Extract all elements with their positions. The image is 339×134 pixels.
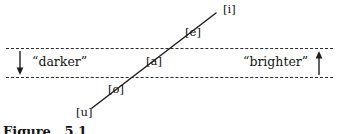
vowel-label-o: [o]: [108, 83, 124, 95]
vowel-label-u: [u]: [76, 106, 93, 118]
arrow-down-icon: [13, 50, 27, 76]
band-label-darker: “darker”: [32, 55, 87, 69]
vowel-label-i: [i]: [223, 3, 236, 15]
vowel-label-e: [e]: [185, 26, 201, 38]
dashed-line-lower-boundary: [6, 77, 333, 78]
dashed-line-upper-boundary: [6, 48, 333, 49]
figure-caption: Figure 5.1: [3, 124, 87, 134]
arrow-up-icon: [312, 50, 326, 76]
vowel-label-a: [a]: [146, 55, 162, 67]
figure-diagram: [i] [e] [a] [o] [u] “darker” “brighter” …: [0, 0, 339, 134]
band-label-brighter: “brighter”: [243, 55, 308, 69]
